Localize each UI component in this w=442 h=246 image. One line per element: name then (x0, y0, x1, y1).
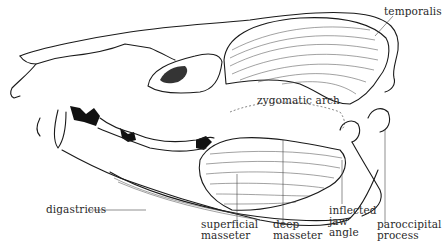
skull-muscle-diagram: temporalis zygomatic arch digastricus su… (0, 0, 442, 246)
label-deep-masseter: deep masseter (273, 219, 322, 241)
label-inflected-jaw-angle-line3: angle (329, 227, 377, 238)
upper-canine (54, 110, 66, 148)
masseter-muscle (199, 138, 345, 211)
label-temporalis: temporalis (384, 6, 442, 17)
orbit-shadow (160, 66, 187, 83)
label-digastricus: digastricus (46, 204, 106, 215)
temporalis-muscle (224, 18, 389, 104)
snout-front (11, 64, 36, 98)
zygomatic-arch-outline (230, 102, 345, 130)
temporalis-fibers (230, 27, 378, 94)
lower-canine (37, 118, 40, 136)
label-superficial-masseter-line2: masseter (201, 230, 258, 241)
upper-tooth-row (100, 118, 214, 142)
paroccipital-region (368, 109, 390, 132)
label-superficial-masseter: superficial masseter (201, 219, 258, 241)
label-deep-masseter-line2: masseter (273, 230, 322, 241)
label-paroccipital-process-line2: process (377, 230, 442, 241)
label-inflected-jaw-angle: inflected jaw angle (329, 205, 377, 238)
tooth-gap-upper (70, 106, 100, 126)
cranium-outline (20, 12, 398, 92)
masseter-fibers (206, 151, 342, 204)
label-paroccipital-process: paroccipital process (377, 219, 442, 241)
digastricus-muscle (110, 172, 350, 221)
label-zygomatic-arch: zygomatic arch (257, 95, 340, 106)
jaw-joint (340, 121, 360, 142)
snout-outline (20, 44, 175, 64)
